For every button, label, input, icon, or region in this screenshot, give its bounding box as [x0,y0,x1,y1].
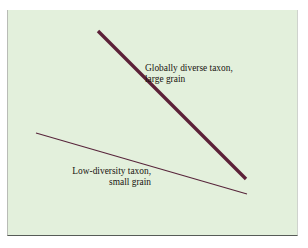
annotation-low-diversity-taxon: Low-diversity taxon, small grain [29,166,151,189]
cropped-caption-strip [0,0,308,9]
annotation-globally-diverse-taxon-line1: Globally diverse taxon, [145,63,233,74]
annotation-globally-diverse-taxon-line2: large grain [145,74,233,85]
plot-canvas [8,10,299,236]
annotation-low-diversity-taxon-line1: Low-diversity taxon, [29,166,151,177]
annotation-globally-diverse-taxon: Globally diverse taxon, large grain [145,63,233,86]
annotation-low-diversity-taxon-line2: small grain [29,177,151,188]
figure-panel: Globally diverse taxon, large grain Low-… [7,10,298,236]
